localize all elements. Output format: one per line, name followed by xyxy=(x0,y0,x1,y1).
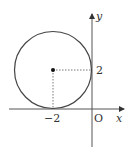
y-axis-label: y xyxy=(95,10,103,23)
origin-label: O xyxy=(94,112,103,125)
diagram-canvas: y x O 2 −2 xyxy=(0,0,133,155)
center-point xyxy=(51,68,55,72)
x-axis-label: x xyxy=(116,112,123,125)
y-tick-label: 2 xyxy=(96,64,103,77)
x-tick-label: −2 xyxy=(44,112,60,125)
